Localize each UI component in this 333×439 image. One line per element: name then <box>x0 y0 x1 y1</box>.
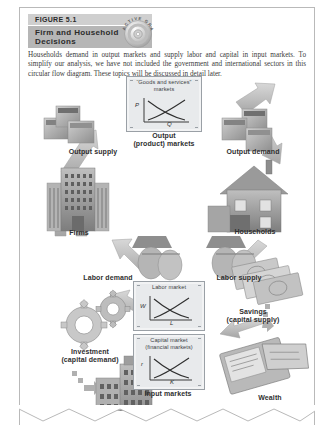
label-savings-line2: (capital supply) <box>227 316 280 323</box>
label-investment-line1: Investment <box>71 348 109 355</box>
label-savings: Savings (capital supply) <box>216 308 290 325</box>
figure-caption: Households demand in output markets and … <box>28 51 306 79</box>
output-supply-boxes-icon <box>44 106 94 143</box>
label-investment: Investment (capital demand) <box>50 348 130 365</box>
labor-market-box: Labor market W L <box>133 281 205 331</box>
output-market-box: “Goods and services” markets P Q <box>126 76 202 132</box>
output-demand-boxes-icon <box>222 109 272 151</box>
box-corner-marks <box>134 335 204 389</box>
firms-office-building-icon <box>47 168 109 231</box>
label-output-demand: Output demand <box>216 148 290 156</box>
box-corner-marks <box>134 282 204 330</box>
torn-paper-edge <box>19 405 315 431</box>
label-labor-supply: Labor supply <box>208 274 270 282</box>
capital-market-box: Capital market (financial markets) r K <box>133 334 205 390</box>
households-house-icon <box>208 160 288 232</box>
output-market-caption-line1: Output <box>152 132 176 139</box>
label-output-supply: Output supply <box>58 148 128 156</box>
label-savings-line1: Savings <box>239 308 267 315</box>
output-market-caption: Output (product) markets <box>120 132 208 149</box>
circular-flow-diagram: “Goods and services” markets P Q Output … <box>20 76 314 411</box>
label-households: Households <box>225 228 285 236</box>
label-investment-line2: (capital demand) <box>61 356 118 363</box>
active-graph-badge[interactable]: ACTIVE GRAPH <box>116 10 160 54</box>
cd-disc-icon: ACTIVE GRAPH <box>116 10 160 54</box>
output-market-caption-line2: (product) markets <box>133 140 194 147</box>
wealth-bank-book-icon <box>219 331 313 395</box>
label-labor-demand: Labor demand <box>75 274 141 282</box>
label-wealth: Wealth <box>245 394 295 402</box>
input-markets-caption: Input markets <box>132 390 204 398</box>
label-firms: Firms <box>54 229 104 237</box>
investment-gears-icon <box>61 290 130 351</box>
figure-panel: FIGURE 5.1 Firm and Household Decisions … <box>19 7 315 425</box>
box-corner-marks <box>127 77 201 131</box>
